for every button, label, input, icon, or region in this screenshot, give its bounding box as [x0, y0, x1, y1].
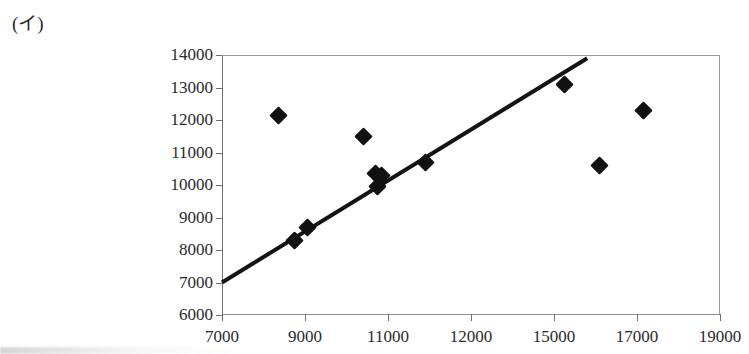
y-axis-tick-label: 6000 — [179, 305, 213, 325]
y-axis-tick-label: 14000 — [171, 45, 214, 65]
x-axis-tick — [388, 314, 389, 321]
x-axis-tick-label: 11000 — [367, 327, 409, 347]
y-axis-tick-label: 8000 — [179, 240, 213, 260]
y-axis-tick-label: 12000 — [171, 110, 214, 130]
x-axis-tick-label: 9000 — [288, 327, 322, 347]
x-axis-tick — [637, 314, 638, 321]
x-axis-tick — [222, 314, 223, 321]
y-axis-tick-label: 9000 — [179, 208, 213, 228]
x-axis-tick-label: 17000 — [616, 327, 659, 347]
figure-canvas: (イ) 140001300012000110001000090008000700… — [0, 0, 749, 354]
trend-line — [222, 55, 720, 315]
y-axis-tick-label: 7000 — [179, 273, 213, 293]
y-axis-tick-label: 11000 — [171, 143, 213, 163]
x-axis-tick — [554, 314, 555, 321]
x-axis-tick-label: 15000 — [533, 327, 576, 347]
scatter-plot: 1400013000120001100010000900080007000600… — [222, 55, 720, 315]
x-axis-tick-label: 7000 — [205, 327, 239, 347]
x-axis-tick — [471, 314, 472, 321]
x-axis-tick-label: 12000 — [450, 327, 493, 347]
y-axis-tick-label: 13000 — [171, 78, 214, 98]
x-axis-tick — [305, 314, 306, 321]
x-axis-tick — [720, 314, 721, 321]
figure-label: (イ) — [12, 8, 44, 35]
scan-artifact — [0, 347, 240, 354]
y-axis-tick-label: 10000 — [171, 175, 214, 195]
x-axis-tick-label: 19000 — [699, 327, 742, 347]
